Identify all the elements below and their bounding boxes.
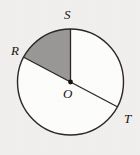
point-label-t: T [124, 112, 131, 125]
center-point-dot [68, 80, 73, 85]
circle-diagram-svg [0, 0, 140, 155]
point-label-s: S [64, 8, 71, 21]
point-label-o: O [63, 87, 72, 100]
point-label-r: R [11, 44, 19, 57]
geometry-figure: S R O T [0, 0, 140, 155]
